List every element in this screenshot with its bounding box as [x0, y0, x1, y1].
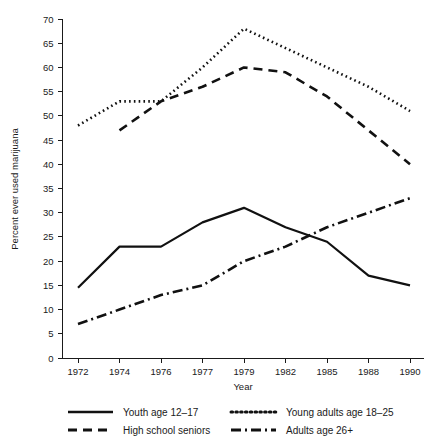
series-line [120, 67, 411, 164]
y-tick-label: 30 [43, 207, 54, 218]
x-tick-label: 1977 [192, 366, 213, 377]
chart-svg: 0510152025303540455055606570 19721974197… [0, 0, 434, 441]
legend-label: Adults age 26+ [286, 425, 353, 436]
y-tick-label: 10 [43, 304, 54, 315]
x-tick-label: 1976 [150, 366, 171, 377]
y-axis-tick-labels: 0510152025303540455055606570 [43, 14, 54, 364]
y-tick-label: 0 [48, 353, 53, 364]
data-series-group [78, 29, 410, 324]
series-line [78, 198, 410, 324]
y-tick-label: 65 [43, 38, 54, 49]
x-tick-label: 1982 [275, 366, 296, 377]
series-line [78, 208, 410, 288]
legend-label: Youth age 12–17 [123, 407, 199, 418]
x-axis-title: Year [233, 381, 252, 392]
y-tick-label: 35 [43, 183, 54, 194]
x-tick-label: 1979 [233, 366, 254, 377]
y-axis-title: Percent ever used marijuana [9, 128, 20, 250]
x-tick-label: 1988 [358, 366, 379, 377]
x-tick-label: 1974 [109, 366, 130, 377]
legend-label: High school seniors [123, 425, 210, 436]
y-tick-label: 55 [43, 86, 54, 97]
y-tick-label: 5 [48, 328, 53, 339]
y-tick-label: 70 [43, 14, 54, 25]
y-tick-label: 45 [43, 135, 54, 146]
y-tick-label: 25 [43, 231, 54, 242]
y-tick-label: 50 [43, 110, 54, 121]
chart-legend: Youth age 12–17Young adults age 18–25Hig… [68, 407, 394, 436]
y-tick-label: 40 [43, 159, 54, 170]
x-tick-label: 1990 [399, 366, 420, 377]
y-axis-ticks [58, 19, 63, 358]
x-axis-tick-labels: 197219741976197719791982198519881990 [67, 366, 420, 377]
x-tick-label: 1972 [67, 366, 88, 377]
legend-label: Young adults age 18–25 [286, 407, 394, 418]
x-tick-label: 1985 [316, 366, 337, 377]
y-tick-label: 15 [43, 280, 54, 291]
marijuana-use-line-chart: 0510152025303540455055606570 19721974197… [0, 0, 434, 441]
series-line [78, 29, 410, 126]
y-tick-label: 20 [43, 256, 54, 267]
y-tick-label: 60 [43, 62, 54, 73]
